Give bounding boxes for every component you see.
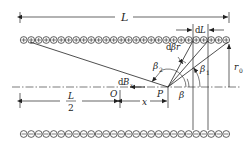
svg-text:1: 1 — [206, 69, 210, 76]
element-label: L — [199, 25, 206, 35]
half-length-denominator: 2 — [68, 103, 74, 113]
origin-label: O — [110, 89, 118, 99]
x-distance-label: x — [142, 97, 147, 107]
beta-label: β — [178, 90, 184, 100]
svg-text:2: 2 — [159, 66, 163, 73]
top-coil-row — [20, 37, 229, 44]
half-length-numerator: L — [67, 91, 74, 101]
bottom-coil-row — [20, 131, 229, 138]
length-label: L — [120, 11, 128, 24]
length-dimension: L — [20, 11, 229, 24]
svg-text:0: 0 — [239, 67, 243, 74]
element-dimension: d L — [176, 25, 224, 35]
solenoid-diagram: L d L d βr β — [0, 0, 252, 151]
dBx-label: B — [122, 77, 129, 87]
point-label: P — [156, 89, 164, 99]
dbeta-r-label: βr — [170, 42, 181, 52]
beta1-label: β — [199, 64, 205, 74]
beta2-label: β — [152, 61, 158, 71]
